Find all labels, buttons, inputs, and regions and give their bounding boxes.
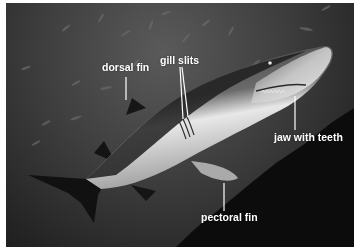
- shark-illustration: [6, 3, 354, 247]
- label-gill-slits: gill slits: [160, 54, 199, 66]
- label-dorsal-fin: dorsal fin: [102, 61, 149, 73]
- eye: [268, 61, 272, 65]
- label-jaw-with-teeth: jaw with teeth: [274, 131, 343, 143]
- pectoral-fin-shape: [191, 161, 238, 181]
- label-pectoral-fin: pectoral fin: [201, 211, 258, 223]
- shark-photo: dorsal fin gill slits jaw with teeth pec…: [6, 3, 354, 247]
- dorsal-fin-shape: [126, 98, 146, 115]
